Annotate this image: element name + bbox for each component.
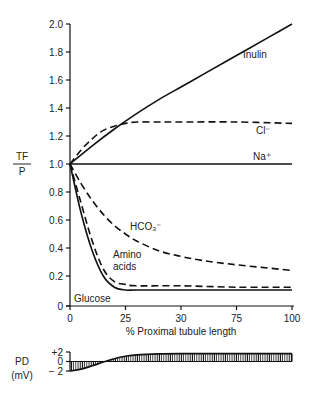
y-tick-label: 0.4 [49, 243, 63, 254]
y-ticks: 00.20.40.60.81.01.21.41.61.82.0 [49, 19, 70, 312]
x-tick-label: 0 [67, 313, 73, 324]
x-axis-title: % Proximal tubule length [126, 326, 237, 337]
pd-panel: +20− 2 [49, 347, 292, 377]
pd-y-tick-label: − 2 [49, 366, 64, 377]
x-tick-label: 100 [284, 313, 301, 324]
series-label-amino-acids-line1: Amino [113, 249, 142, 260]
y-tick-label: 0.8 [49, 187, 63, 198]
curve-amino-acids [70, 164, 292, 287]
curve-glucose [70, 164, 292, 290]
pd-axis-title: PD [15, 356, 29, 367]
series-label-inulin: Inulin [243, 49, 267, 60]
pd-axis-units: (mV) [11, 370, 33, 381]
y-tick-label: 1.8 [49, 47, 63, 58]
x-ticks: 0253075100 [67, 306, 301, 324]
y-tick-label: 0.6 [49, 215, 63, 226]
series-label-glucose: Glucose [74, 293, 111, 304]
curve-inulin [70, 24, 292, 164]
tf-p-chart: 00.20.40.60.81.01.21.41.61.82.0 02530751… [0, 0, 315, 396]
series-label-amino-acids-line2: acids [113, 261, 136, 272]
series-label-hco3: HCO₃⁻ [130, 221, 161, 232]
y-axis-title-denominator: P [19, 166, 26, 177]
x-tick-label: 75 [231, 313, 243, 324]
series-label-na: Na⁺ [253, 151, 271, 162]
x-tick-label: 25 [120, 313, 132, 324]
y-tick-label: 1.6 [49, 75, 63, 86]
y-tick-label: 1.2 [49, 131, 63, 142]
y-tick-label: 1.4 [49, 103, 63, 114]
y-tick-label: 0.2 [49, 271, 63, 282]
y-tick-label: 2.0 [49, 19, 63, 30]
y-tick-label: 1.0 [49, 159, 63, 170]
y-axis-title-numerator: TF [16, 151, 28, 162]
series-label-cl: Cl⁻ [256, 125, 270, 136]
curve-hco3 [70, 164, 292, 270]
y-tick-label: 0 [57, 301, 63, 312]
x-tick-label: 30 [175, 313, 187, 324]
